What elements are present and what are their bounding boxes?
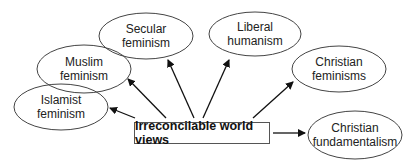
node-label-line2: feminism [122,36,170,50]
arrow-to-liberal-humanism [203,60,229,118]
arrow-to-secular-feminism [168,60,194,118]
node-label-line2: feminisms [312,69,366,83]
central-concept-box: Irreconcilable world views [134,122,270,144]
node-label-islamist-feminism: Islamistfeminism [37,93,85,121]
central-concept-label: Irreconcilable world views [135,119,269,147]
node-label-line2: fundamentalism [313,135,398,149]
node-label-line1: Muslim [60,55,108,69]
node-label-line1: Secular [122,22,170,36]
node-label-line2: feminism [37,107,85,121]
node-label-line1: Christian [312,55,366,69]
arrow-to-islamist-feminism [110,108,135,118]
node-label-line2: humanism [227,34,282,48]
arrow-to-christian-feminisms [253,82,293,118]
arrow-to-muslim-feminism [128,79,166,118]
node-label-liberal-humanism: Liberalhumanism [227,20,282,48]
node-label-line1: Liberal [227,20,282,34]
node-label-line1: Islamist [37,93,85,107]
node-label-christian-fundamentalism: Christianfundamentalism [313,121,398,149]
node-label-line1: Christian [313,121,398,135]
node-label-christian-feminisms: Christianfeminisms [312,55,366,83]
node-label-secular-feminism: Secularfeminism [122,22,170,50]
node-label-muslim-feminism: Muslimfeminism [60,55,108,83]
node-label-line2: feminism [60,69,108,83]
